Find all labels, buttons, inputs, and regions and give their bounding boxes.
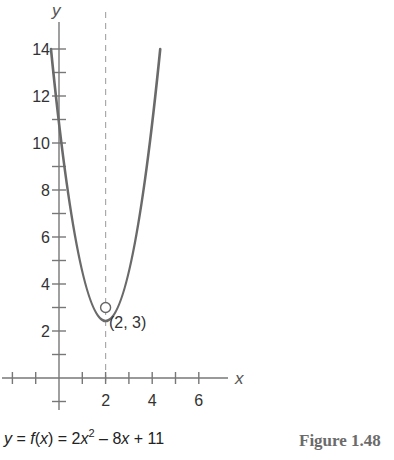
x-axis-label: x	[234, 369, 244, 388]
x-tick-label-2: 2	[101, 392, 110, 409]
vertex-label: (2, 3)	[109, 314, 146, 331]
function-equation: y = f(x) = 2x2 – 8x + 11	[4, 430, 164, 448]
x-tick-label-4: 4	[148, 392, 157, 409]
y-tick-label-2: 2	[41, 323, 50, 340]
vertex-point	[101, 303, 111, 313]
figure-caption: Figure 1.48	[299, 431, 381, 451]
y-tick-label-12: 12	[32, 88, 50, 105]
parabola-chart: 2 4 6 x 2 4 6 8 10 12 14 y (2, 3)	[0, 0, 394, 430]
y-tick-label-10: 10	[32, 135, 50, 152]
y-tick-label-6: 6	[41, 229, 50, 246]
y-tick-label-14: 14	[32, 41, 50, 58]
y-tick-label-8: 8	[41, 182, 50, 199]
y-tick-label-4: 4	[41, 276, 50, 293]
y-axis-label: y	[51, 1, 62, 20]
x-tick-label-6: 6	[194, 392, 203, 409]
